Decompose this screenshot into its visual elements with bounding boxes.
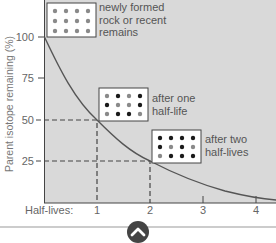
box1-text: newly formed rock or recent remains: [99, 1, 166, 39]
box-newly-formed: [47, 3, 96, 37]
box-after-two-half-lives: [152, 130, 201, 163]
x-tick-3: 3: [200, 204, 206, 216]
box3-line1: after two: [205, 133, 248, 146]
box2-line2: half-life: [152, 105, 195, 118]
box2-line1: after one: [152, 92, 195, 105]
x-axis-label: Half-lives:: [25, 204, 73, 216]
chevron-up-icon: [127, 221, 149, 243]
x-tick-2: 2: [147, 204, 153, 216]
box1-line1: newly formed: [99, 1, 166, 14]
box-after-one-half-life: [99, 88, 148, 121]
scroll-up-button[interactable]: [127, 221, 149, 243]
box2-text: after one half-life: [152, 92, 195, 117]
y-tick-75: 75: [22, 72, 34, 84]
x-tick-1: 1: [94, 204, 100, 216]
y-tick-50: 50: [22, 114, 34, 126]
y-tick-25: 25: [22, 155, 34, 167]
y-ticks: [38, 37, 45, 78]
box1-line3: remains: [99, 26, 166, 39]
box3-text: after two half-lives: [205, 133, 248, 158]
y-tick-100: 100: [16, 31, 34, 43]
x-tick-4: 4: [253, 204, 259, 216]
box1-line2: rock or recent: [99, 14, 166, 27]
box3-line2: half-lives: [205, 146, 248, 159]
y-axis-label: Parent isotope remaining (%): [3, 36, 15, 172]
